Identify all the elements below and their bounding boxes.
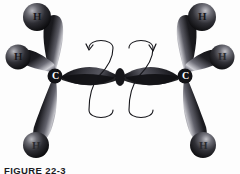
right-carbon-group bbox=[177, 3, 235, 158]
orbital-lobe-lower-right bbox=[183, 80, 207, 141]
hydrogen-sphere-upper-right bbox=[188, 3, 216, 31]
pi-bond-group bbox=[62, 67, 178, 86]
left-carbon-group bbox=[6, 3, 64, 158]
orbital-lobe-lower-left bbox=[33, 80, 57, 141]
ethylene-orbital-illustration bbox=[0, 0, 240, 160]
carbon-sphere-left bbox=[48, 69, 63, 84]
hydrogen-sphere-mid-left bbox=[6, 45, 31, 70]
carbon-sphere-right bbox=[178, 69, 193, 84]
hydrogen-sphere-mid-right bbox=[210, 45, 235, 70]
figure-container: H H H H H H C C FIGURE 22-3 bbox=[0, 0, 240, 174]
hydrogen-sphere-upper-left bbox=[23, 3, 51, 31]
hydrogen-sphere-lower-right bbox=[190, 132, 216, 158]
hydrogen-sphere-lower-left bbox=[23, 132, 49, 158]
pi-node-center bbox=[115, 68, 125, 86]
figure-caption: FIGURE 22-3 bbox=[4, 166, 66, 174]
